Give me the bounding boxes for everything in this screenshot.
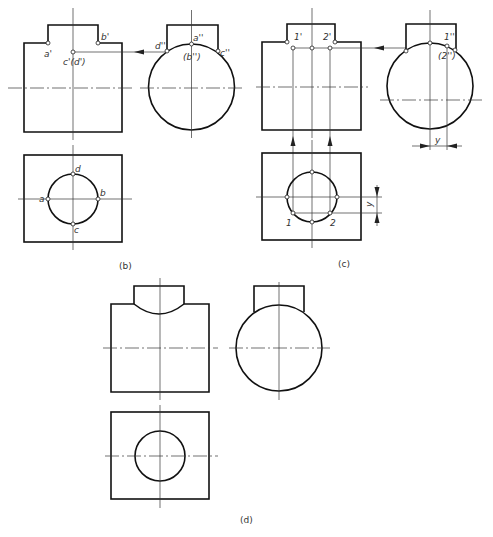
- label-1-double-prime: 1'': [444, 32, 455, 42]
- caption-b: (b): [119, 261, 132, 271]
- arrow-up-icon: [291, 136, 296, 146]
- label-2: 2: [330, 218, 336, 228]
- label-b-double-prime: (b''): [183, 52, 201, 62]
- panel-b: a' b' c'(d') d'' a'' (b'') c'': [8, 8, 244, 271]
- arrow-left-icon: [447, 144, 457, 149]
- arrow-up-icon: [328, 136, 333, 146]
- caption-c: (c): [338, 259, 350, 269]
- panel-b-front-view: a' b' c'(d'): [8, 8, 167, 140]
- arrow-up-icon: [375, 213, 380, 223]
- panel-c-top-view: y 1 2: [256, 140, 382, 248]
- panel-d-front-view: [103, 278, 218, 400]
- dim-y-side: y: [434, 135, 441, 145]
- label-2-double-prime: (2''): [438, 51, 456, 61]
- panel-d-top-view: [105, 405, 218, 508]
- panel-b-side-view: d'' a'' (b'') c'': [140, 10, 244, 138]
- panel-d-side-view: [229, 282, 330, 400]
- panel-c-side-view: y 1'' (2''): [380, 10, 484, 150]
- panel-b-top-view: a b c d: [18, 145, 132, 250]
- label-a-double-prime: a'': [193, 33, 203, 43]
- label-1: 1: [286, 218, 292, 228]
- label-2-prime: 2': [323, 32, 331, 42]
- dim-y-top: y: [364, 201, 374, 208]
- arrow-icon: [374, 46, 384, 51]
- label-b: b: [100, 188, 106, 198]
- label-d: d: [75, 164, 81, 174]
- arrow-right-icon: [420, 144, 430, 149]
- caption-d: (d): [240, 515, 253, 525]
- label-cd-prime: c'(d'): [63, 57, 86, 67]
- label-c: c: [74, 225, 79, 235]
- label-1-prime: 1': [294, 32, 302, 42]
- label-d-double-prime: d'': [155, 41, 166, 51]
- label-c-double-prime: c'': [220, 48, 230, 58]
- panel-d: (d): [103, 278, 330, 525]
- arrow-icon: [134, 50, 144, 55]
- label-a: a: [39, 194, 45, 204]
- label-b-prime: b': [101, 32, 109, 42]
- arrow-down-icon: [375, 187, 380, 197]
- panel-c: 1' 2' y 1'' (2''): [256, 8, 484, 269]
- orthographic-projection-diagram: a' b' c'(d') d'' a'' (b'') c'': [0, 0, 493, 537]
- label-a-prime: a': [44, 49, 52, 59]
